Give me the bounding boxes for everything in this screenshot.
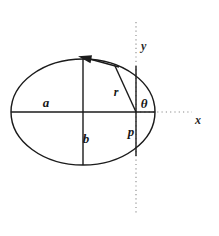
- semi-major-axis-label: a: [43, 95, 50, 110]
- y-axis-label: y: [139, 39, 147, 53]
- diagram-canvas: a b r θ p y x: [0, 0, 219, 236]
- semi-minor-axis-label: b: [83, 131, 90, 146]
- ellipse-diagram: a b r θ p y x: [0, 0, 219, 236]
- radius-label: r: [114, 85, 119, 99]
- angle-theta-label: θ: [141, 96, 148, 111]
- x-axis-label: x: [194, 113, 201, 127]
- semi-latus-rectum-label: p: [127, 124, 135, 139]
